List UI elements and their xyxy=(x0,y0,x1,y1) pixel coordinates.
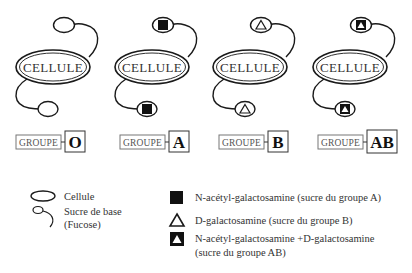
cell-group-o: CELLULE xyxy=(16,18,98,117)
ab-sugar-icon xyxy=(356,20,366,30)
legend-label: D-galactosamine (sucre du groupe B) xyxy=(195,215,353,227)
groupe-label: GROUPE xyxy=(123,138,162,148)
cell-label: CELLULE xyxy=(23,60,83,75)
blood-group-diagram: CELLULE GROUPE O CELLULE GROUPE A CELLUL… xyxy=(0,0,412,273)
group-letter: B xyxy=(272,133,283,152)
groupe-label: GROUPE xyxy=(321,138,360,148)
triangle-icon xyxy=(170,214,184,226)
group-letter: AB xyxy=(370,133,394,152)
filled-square-icon xyxy=(170,191,183,204)
legend-item-group-b-sugar: D-galactosamine (sucre du groupe B) xyxy=(170,214,353,227)
ellipse-icon xyxy=(31,191,55,201)
circle-with-tail-icon xyxy=(33,207,53,228)
legend-label: N-acétyl-galactosamine +D-galactosamine xyxy=(195,233,375,244)
cell-label: CELLULE xyxy=(320,60,380,75)
legend: Cellule Sucre de base (Fucose) N-acétyl-… xyxy=(31,191,382,259)
legend-label: Sucre de base xyxy=(64,206,122,217)
legend-item-group-ab-sugar: N-acétyl-galactosamine +D-galactosamine … xyxy=(170,232,375,259)
group-badge-o: GROUPE O xyxy=(16,131,85,152)
groupe-label: GROUPE xyxy=(19,138,58,148)
n-acetyl-galactosamine-icon xyxy=(142,104,152,114)
cell-group-a: CELLULE xyxy=(115,18,197,117)
ab-sugar-icon xyxy=(340,104,350,114)
legend-item-group-a-sugar: N-acétyl-galactosamine (sucre du groupe … xyxy=(170,191,382,204)
legend-sublabel: (Fucose) xyxy=(64,219,101,231)
square-with-triangle-icon xyxy=(170,232,184,246)
legend-label: N-acétyl-galactosamine (sucre du groupe … xyxy=(195,192,382,204)
n-acetyl-galactosamine-icon xyxy=(158,20,168,30)
groupe-label: GROUPE xyxy=(222,138,261,148)
group-letter: O xyxy=(68,133,81,152)
group-badge-ab: GROUPE AB xyxy=(318,130,397,153)
cell-label: CELLULE xyxy=(122,60,182,75)
group-letter: A xyxy=(173,133,186,152)
group-badge-a: GROUPE A xyxy=(120,131,189,152)
cell-label: CELLULE xyxy=(220,60,280,75)
legend-item-cellule: Cellule xyxy=(31,191,95,202)
legend-label: Cellule xyxy=(64,191,95,202)
group-badge-b: GROUPE B xyxy=(219,131,288,152)
cell-group-b: CELLULE xyxy=(213,18,295,117)
cell-group-ab: CELLULE xyxy=(313,18,395,117)
legend-item-sucre-de-base: Sucre de base (Fucose) xyxy=(33,206,122,231)
legend-sublabel: (sucre du groupe AB) xyxy=(195,247,286,259)
